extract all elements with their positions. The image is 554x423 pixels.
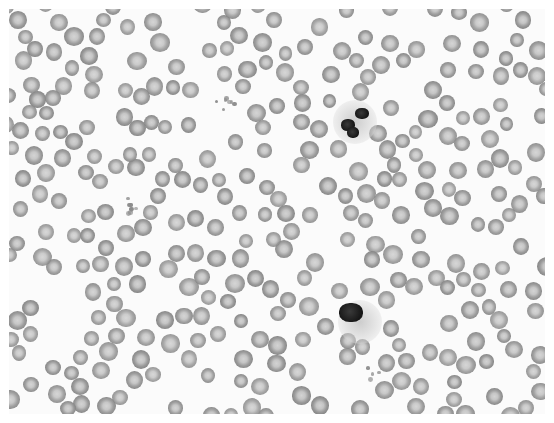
red-blood-cell: [317, 318, 334, 335]
red-blood-cell: [468, 64, 484, 80]
red-blood-cell: [85, 283, 101, 300]
red-blood-cell: [470, 13, 489, 31]
red-blood-cell: [471, 283, 485, 297]
red-blood-cell: [53, 125, 68, 139]
red-blood-cell: [358, 30, 374, 45]
red-blood-cell: [360, 278, 379, 296]
red-blood-cell: [418, 110, 437, 129]
red-blood-cell: [500, 117, 513, 131]
red-blood-cell: [383, 100, 399, 116]
red-blood-cell: [477, 160, 494, 178]
red-blood-cell: [45, 360, 60, 375]
red-blood-cell: [91, 310, 106, 324]
red-blood-cell: [99, 342, 118, 361]
red-blood-cell: [407, 398, 425, 414]
red-blood-cell: [488, 219, 504, 235]
red-blood-cell: [187, 244, 204, 262]
red-blood-cell: [513, 238, 529, 255]
red-blood-cell: [145, 367, 161, 382]
red-blood-cell: [76, 259, 89, 273]
platelet: [127, 203, 131, 207]
red-blood-cell: [383, 320, 399, 337]
red-blood-cell: [87, 149, 102, 164]
red-blood-cell: [73, 350, 88, 366]
red-blood-cell: [234, 314, 248, 329]
red-blood-cell: [84, 331, 100, 346]
red-blood-cell: [473, 41, 489, 58]
red-blood-cell: [536, 188, 545, 204]
red-blood-cell: [224, 9, 241, 19]
red-blood-cell: [294, 94, 312, 112]
red-blood-cell: [250, 9, 266, 13]
red-blood-cell: [210, 326, 227, 342]
red-blood-cell: [293, 114, 310, 130]
red-blood-cell: [447, 375, 462, 389]
red-blood-cell: [107, 277, 121, 292]
red-blood-cell: [81, 209, 96, 223]
red-blood-cell: [207, 250, 226, 268]
red-blood-cell: [501, 407, 520, 414]
red-blood-cell: [220, 41, 234, 56]
red-blood-cell: [374, 192, 391, 209]
red-blood-cell: [116, 309, 135, 327]
red-blood-cell: [330, 140, 348, 157]
red-blood-cell: [235, 79, 250, 94]
red-blood-cell: [331, 283, 348, 300]
red-blood-cell: [202, 43, 217, 57]
red-blood-cell: [98, 240, 113, 256]
red-blood-cell: [518, 400, 534, 414]
red-blood-cell: [439, 95, 456, 111]
red-blood-cell: [449, 162, 467, 180]
red-blood-cell: [37, 164, 54, 182]
red-blood-cell: [257, 143, 272, 157]
red-blood-cell: [372, 56, 390, 75]
red-blood-cell: [155, 171, 170, 187]
red-blood-cell: [23, 377, 39, 392]
platelet: [222, 108, 225, 111]
red-blood-cell: [395, 134, 410, 149]
red-blood-cell: [12, 345, 27, 360]
red-blood-cell: [127, 159, 144, 176]
red-blood-cell: [190, 333, 205, 348]
red-blood-cell: [491, 186, 507, 201]
red-blood-cell: [439, 349, 456, 366]
red-blood-cell: [322, 66, 340, 83]
red-blood-cell: [409, 148, 424, 162]
red-blood-cell: [358, 213, 373, 228]
platelet: [126, 197, 129, 200]
red-blood-cell: [375, 381, 394, 399]
red-blood-cell: [123, 147, 137, 162]
red-blood-cell: [22, 105, 37, 120]
red-blood-cell: [150, 33, 170, 52]
red-blood-cell: [277, 205, 295, 222]
red-blood-cell: [132, 350, 150, 369]
platelet: [366, 366, 370, 370]
red-blood-cell: [228, 134, 244, 150]
red-blood-cell: [319, 177, 337, 195]
red-blood-cell: [175, 308, 192, 325]
red-blood-cell: [454, 136, 470, 151]
red-blood-cell: [427, 9, 444, 17]
red-blood-cell: [456, 272, 471, 286]
red-blood-cell: [217, 66, 232, 82]
red-blood-cell: [201, 290, 217, 305]
red-blood-cell: [340, 232, 355, 247]
red-blood-cell: [440, 280, 455, 295]
red-blood-cell: [120, 19, 135, 35]
red-blood-cell: [137, 329, 155, 346]
red-blood-cell: [502, 208, 516, 223]
red-blood-cell: [85, 66, 103, 83]
red-blood-cell: [64, 366, 79, 380]
red-blood-cell: [78, 165, 94, 180]
red-blood-cell: [349, 53, 364, 68]
red-blood-cell: [437, 406, 453, 414]
red-blood-cell: [166, 80, 181, 95]
red-blood-cell: [60, 401, 76, 414]
red-blood-cell: [387, 157, 402, 173]
red-blood-cell: [39, 106, 54, 120]
red-blood-cell: [201, 368, 215, 383]
red-blood-cell: [35, 126, 50, 141]
red-blood-cell: [127, 52, 146, 70]
red-blood-cell: [293, 80, 309, 95]
red-blood-cell: [27, 41, 42, 57]
